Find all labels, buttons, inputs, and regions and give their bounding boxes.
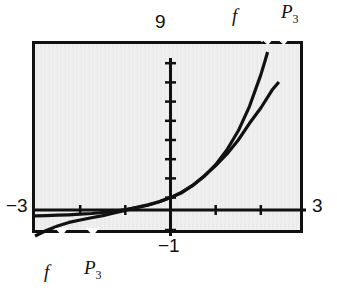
curve-p3 xyxy=(35,82,279,236)
curve-label-p3-bottom: P3 xyxy=(84,258,102,285)
y-max-label: 9 xyxy=(155,12,166,31)
curve-label-p3-top-sub: 3 xyxy=(293,12,299,26)
y-min-label: −1 xyxy=(158,236,180,255)
curve-label-f-top: f xyxy=(232,6,237,25)
curve-label-p3-bottom-base: P xyxy=(84,257,96,278)
x-max-label: 3 xyxy=(312,196,323,215)
curve-f xyxy=(35,52,268,216)
taylor-polynomial-figure: 9 −1 −3 3 f P3 f P3 xyxy=(0,0,337,299)
curve-label-p3-bottom-sub: 3 xyxy=(96,268,102,282)
x-min-label: −3 xyxy=(6,196,28,215)
curve-label-p3-top-base: P xyxy=(281,1,293,22)
plot-canvas xyxy=(35,44,306,236)
curve-label-f-bottom: f xyxy=(44,262,49,281)
graph-window xyxy=(32,41,303,233)
curve-label-p3-top: P3 xyxy=(281,2,299,29)
